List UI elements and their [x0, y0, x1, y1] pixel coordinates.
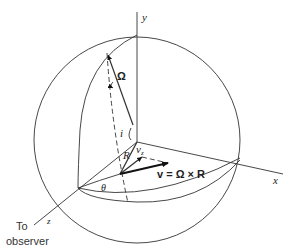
vz-dashed: [142, 157, 168, 163]
omega-vector: [108, 55, 133, 125]
sphere-diagram: y x z Ω i R vz θ v = Ω × R To observer: [0, 0, 292, 252]
observer-label-line2: observer: [6, 235, 49, 247]
rotation-curl-icon: [111, 82, 113, 88]
observer-label-line1: To: [16, 220, 28, 232]
velocity-equation: v = Ω × R: [157, 168, 205, 180]
inclination-arc: [129, 128, 131, 140]
theta-arc: [78, 174, 120, 188]
z-axis: [34, 142, 137, 225]
y-axis-label: y: [141, 11, 147, 23]
z-axis-label: z: [46, 216, 51, 226]
theta-label: θ: [101, 182, 106, 193]
x-axis-label: x: [272, 174, 278, 186]
vz-label: vz: [136, 143, 144, 157]
radius-label: R: [122, 149, 130, 161]
omega-label: Ω: [117, 70, 126, 82]
inclination-label: i: [120, 127, 123, 139]
